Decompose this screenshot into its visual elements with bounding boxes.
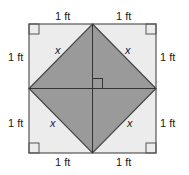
label-bottom-right: 1 ft (116, 156, 131, 168)
label-top-left: 1 ft (55, 10, 70, 22)
label-right-top: 1 ft (160, 51, 175, 63)
label-top-right: 1 ft (116, 10, 131, 22)
label-left-top: 1 ft (8, 51, 23, 63)
label-x-bottom-right: x (126, 117, 133, 129)
label-x-bottom-left: x (49, 117, 56, 129)
label-x-top-right: x (124, 44, 131, 56)
label-x-top-left: x (54, 44, 61, 56)
diagram-canvas: 1 ft 1 ft 1 ft 1 ft 1 ft 1 ft 1 ft 1 ft … (0, 0, 189, 175)
label-bottom-left: 1 ft (55, 156, 70, 168)
label-right-bottom: 1 ft (160, 117, 175, 129)
label-left-bottom: 1 ft (8, 117, 23, 129)
